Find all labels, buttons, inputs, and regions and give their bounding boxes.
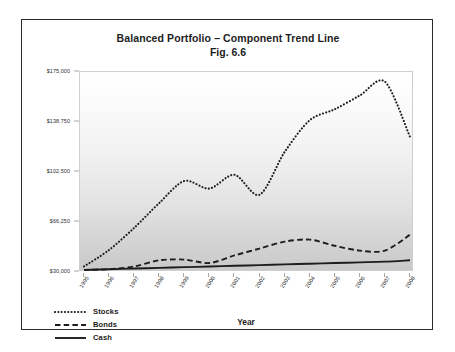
y-axis-tick-label: $30,000 bbox=[50, 268, 70, 274]
series-canvas bbox=[80, 72, 414, 272]
x-axis-tick-label: 1995 bbox=[78, 275, 90, 289]
x-axis-tick-label: 2005 bbox=[329, 275, 341, 289]
legend-item-cash: Cash bbox=[54, 331, 204, 344]
chart-title: Balanced Portfolio – Component Trend Lin… bbox=[22, 31, 434, 45]
x-axis-tick-label: 1997 bbox=[128, 275, 140, 289]
x-axis-tick-label: 2004 bbox=[304, 275, 316, 289]
legend-item-bonds: Bonds bbox=[54, 318, 204, 331]
legend-swatch-solid-icon bbox=[54, 334, 87, 342]
chart-title-block: Balanced Portfolio – Component Trend Lin… bbox=[22, 31, 434, 59]
series-line-stocks bbox=[84, 80, 410, 266]
legend-label: Stocks bbox=[93, 307, 119, 316]
y-axis-tick-label: $102,500 bbox=[47, 168, 70, 174]
x-axis-tick-label: 2003 bbox=[279, 275, 291, 289]
series-line-cash bbox=[84, 260, 410, 270]
legend-swatch-dotted-icon bbox=[54, 308, 87, 316]
x-axis-tick-label: 2008 bbox=[404, 275, 416, 289]
figure-number: Fig. 6.6 bbox=[22, 45, 434, 59]
legend-label: Bonds bbox=[93, 320, 117, 329]
x-axis-tick-label: 2006 bbox=[354, 275, 366, 289]
chart-page: Balanced Portfolio – Component Trend Lin… bbox=[0, 0, 455, 352]
x-axis-tick-label: 1998 bbox=[153, 275, 165, 289]
y-axis: $30,000$66,250$102,500$138,750$175,000 bbox=[22, 64, 75, 278]
x-axis-tick-label: 1999 bbox=[178, 275, 190, 289]
x-axis-tick-label: 2001 bbox=[229, 275, 241, 289]
legend-swatch-dashed-icon bbox=[54, 321, 87, 329]
x-axis: 1995199619971998199920002001200220032004… bbox=[79, 272, 413, 306]
y-axis-tick-label: $66,250 bbox=[50, 218, 70, 224]
y-axis-tick-label: $175,000 bbox=[47, 68, 70, 74]
legend-label: Cash bbox=[93, 333, 112, 342]
figure-frame: Balanced Portfolio – Component Trend Lin… bbox=[21, 19, 433, 330]
y-axis-tick-label: $138,750 bbox=[47, 118, 70, 124]
x-axis-tick-label: 2007 bbox=[379, 275, 391, 289]
chart-legend: StocksBondsCash bbox=[54, 305, 204, 344]
x-axis-tick-label: 1996 bbox=[103, 275, 115, 289]
legend-item-stocks: Stocks bbox=[54, 305, 204, 318]
plot-area bbox=[79, 71, 413, 271]
x-axis-tick-label: 2002 bbox=[254, 275, 266, 289]
x-axis-tick-label: 2000 bbox=[204, 275, 216, 289]
